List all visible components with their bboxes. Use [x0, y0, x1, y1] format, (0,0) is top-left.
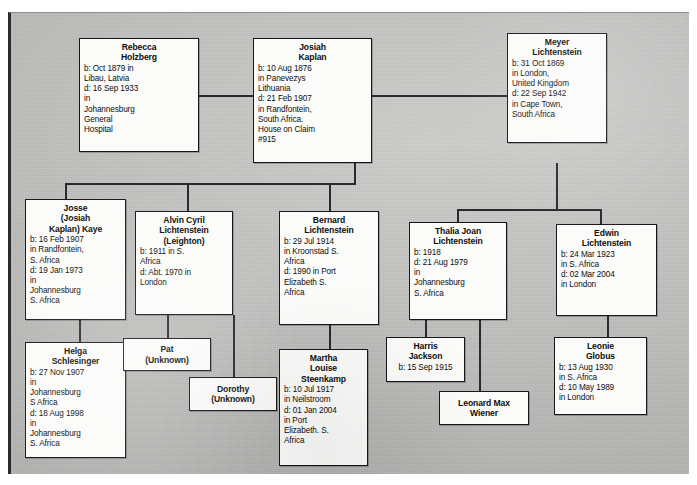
- connector-josiah-drop: [354, 163, 356, 185]
- person-details: b: 24 Mar 1923 in S. Africa d: 02 Mar 20…: [561, 250, 652, 291]
- person-name: Bernard Lichtenstein: [284, 215, 374, 236]
- connector-josse-helga: [79, 320, 81, 342]
- person-box-pat-unknown[interactable]: Pat (Unknown): [123, 338, 211, 371]
- person-name: Josiah Kaplan: [258, 42, 367, 63]
- person-details: b: 10 Aug 1876 in Panevezys Lithuania d:…: [258, 64, 367, 146]
- connector-to-edwin: [600, 209, 602, 224]
- person-details: b: 1918 d: 21 Aug 1979 in Johannesburg S…: [414, 248, 502, 299]
- connector-to-josse: [65, 183, 67, 199]
- person-box-rebecca-holzberg[interactable]: Rebecca Holzberg b: Oct 1879 in Libau, L…: [79, 38, 199, 152]
- person-name: Alvin Cyril Lichtenstein (Leighton): [140, 215, 228, 246]
- person-details: b: 10 Jul 1917 in Neilstroom d: 01 Jan 2…: [284, 385, 363, 446]
- person-box-alvin-cyril-lichtenstein[interactable]: Alvin Cyril Lichtenstein (Leighton) b: 1…: [135, 211, 233, 315]
- family-tree-chart: Rebecca Holzberg b: Oct 1879 in Libau, L…: [0, 0, 697, 485]
- chart-sheet: Rebecca Holzberg b: Oct 1879 in Libau, L…: [8, 12, 689, 474]
- person-name: Leonard Max Wiener: [458, 398, 510, 419]
- person-details: b: 31 Oct 1869 in London, United Kingdom…: [512, 59, 602, 120]
- connector-rebecca-josiah: [199, 95, 253, 97]
- person-details: b: 15 Sep 1915: [390, 363, 461, 373]
- person-name: Josse (Josiah Kaplan) Kaye: [30, 203, 121, 234]
- person-details: b: 16 Feb 1907 in Randfontein, S. Africa…: [30, 235, 121, 306]
- chart-canvas: Rebecca Holzberg b: Oct 1879 in Libau, L…: [11, 13, 689, 474]
- connector-edwin-leonie: [607, 316, 609, 337]
- connector-alvin-dorothy: [233, 315, 235, 377]
- person-name: Martha Louise Steenkamp: [284, 353, 363, 384]
- person-name: Dorothy (Unknown): [211, 384, 255, 405]
- person-name: Pat (Unknown): [145, 344, 189, 365]
- person-name: Thalia Joan Lichtenstein: [414, 226, 502, 247]
- connector-meyer-drop: [556, 163, 558, 210]
- person-box-meyer-lichtenstein[interactable]: Meyer Lichtenstein b: 31 Oct 1869 in Lon…: [507, 33, 607, 143]
- person-details: b: 27 Nov 1907 in Johannesburg S Africa …: [30, 368, 121, 450]
- person-details: b: 13 Aug 1930 in S. Africa d: 10 May 19…: [559, 363, 642, 404]
- connector-thalia-harris: [425, 320, 427, 337]
- person-box-leonard-max-wiener[interactable]: Leonard Max Wiener: [439, 391, 529, 425]
- connector-gen2-left-bar: [65, 183, 356, 185]
- person-details: b: 1911 in S. Africa d: Abt. 1970 in Lon…: [140, 247, 228, 288]
- person-box-leonie-globus[interactable]: Leonie Globus b: 13 Aug 1930 in S. Afric…: [554, 337, 647, 415]
- connector-to-bernard: [329, 183, 331, 211]
- person-box-bernard-lichtenstein[interactable]: Bernard Lichtenstein b: 29 Jul 1914 in K…: [279, 211, 379, 325]
- connector-to-alvin: [187, 183, 189, 211]
- connector-to-thalia: [457, 209, 459, 222]
- connector-josiah-meyer: [372, 95, 507, 97]
- person-name: Helga Schlesinger: [30, 346, 121, 367]
- connector-bernard-martha: [329, 325, 331, 349]
- connector-thalia-leonard: [479, 320, 481, 391]
- person-name: Leonie Globus: [559, 341, 642, 362]
- connector-alvin-pat: [167, 315, 169, 338]
- person-box-martha-louise-steenkamp[interactable]: Martha Louise Steenkamp b: 10 Jul 1917 i…: [279, 349, 368, 466]
- person-box-dorothy-unknown[interactable]: Dorothy (Unknown): [189, 377, 277, 411]
- connector-gen2-right-bar: [457, 209, 601, 211]
- person-box-edwin-lichtenstein[interactable]: Edwin Lichtenstein b: 24 Mar 1923 in S. …: [556, 224, 657, 316]
- person-details: b: 29 Jul 1914 in Kroonstad S. Africa d:…: [284, 237, 374, 298]
- person-box-thalia-joan-lichtenstein[interactable]: Thalia Joan Lichtenstein b: 1918 d: 21 A…: [409, 222, 507, 320]
- person-box-harris-jackson[interactable]: Harris Jackson b: 15 Sep 1915: [386, 337, 465, 382]
- person-box-josiah-kaplan[interactable]: Josiah Kaplan b: 10 Aug 1876 in Panevezy…: [253, 38, 372, 163]
- person-box-josse-kaye[interactable]: Josse (Josiah Kaplan) Kaye b: 16 Feb 190…: [25, 199, 126, 320]
- person-box-helga-schlesinger[interactable]: Helga Schlesinger b: 27 Nov 1907 in Joha…: [25, 342, 126, 458]
- person-name: Rebecca Holzberg: [84, 42, 194, 63]
- person-name: Edwin Lichtenstein: [561, 228, 652, 249]
- person-name: Harris Jackson: [390, 341, 461, 362]
- person-details: b: Oct 1879 in Libau, Latvia d: 16 Sep 1…: [84, 64, 194, 135]
- person-name: Meyer Lichtenstein: [512, 37, 602, 58]
